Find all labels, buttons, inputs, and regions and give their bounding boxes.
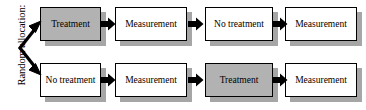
node-label: Treatment <box>51 19 90 29</box>
arrow-b-3-to-4 <box>272 73 288 87</box>
node-label: Measurement <box>295 19 347 29</box>
node-label: Measurement <box>295 75 347 85</box>
node-sequence-b-step-3: Treatment <box>205 63 273 97</box>
arrow-a-3-to-4 <box>272 17 288 31</box>
arrow-a-1-to-2 <box>100 17 116 31</box>
crossover-trial-diagram: Random allocation: Treatment Measurement <box>0 0 366 110</box>
arrow-a-2-to-3 <box>188 17 204 31</box>
node-sequence-b-step-1: No treatment <box>40 63 101 97</box>
node-sequence-b-step-4: Measurement <box>285 63 357 97</box>
node-sequence-b-step-2: Measurement <box>115 63 187 97</box>
node-label: Measurement <box>125 75 177 85</box>
arrow-b-2-to-3 <box>188 73 204 87</box>
node-label: No treatment <box>214 19 264 29</box>
node-sequence-a-step-4: Measurement <box>285 7 357 41</box>
double-headed-allocation-arrow <box>16 18 44 78</box>
arrow-b-1-to-2 <box>100 73 116 87</box>
node-label: No treatment <box>46 75 96 85</box>
node-sequence-a-step-3: No treatment <box>205 7 273 41</box>
node-label: Measurement <box>125 19 177 29</box>
node-label: Treatment <box>220 75 259 85</box>
node-sequence-a-step-1: Treatment <box>40 7 101 41</box>
node-sequence-a-step-2: Measurement <box>115 7 187 41</box>
